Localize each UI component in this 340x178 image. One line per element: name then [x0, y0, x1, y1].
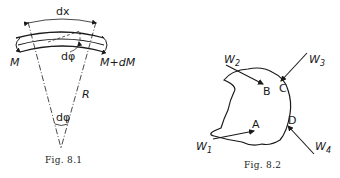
force-arrow-w3: [281, 53, 307, 81]
label-moment-right: M+dM: [100, 56, 136, 69]
fig-8-1-beam-element: dx M dφ M+dM R dφ Fig. 8.1: [10, 5, 136, 165]
figure-canvas: dx M dφ M+dM R dφ Fig. 8.1 A B C D W1 W2…: [0, 0, 340, 178]
beam-top-edge: [16, 32, 104, 38]
w1-sub: 1: [207, 146, 212, 155]
w3-sub: 3: [320, 59, 325, 68]
force-label-w2: W2: [224, 53, 240, 68]
apex-angle-arc: [55, 124, 68, 126]
fig-8-2-caption: Fig. 8.2: [244, 160, 281, 170]
label-radius: R: [82, 88, 90, 101]
radial-line-right: [61, 22, 96, 148]
point-label-b: B: [263, 85, 271, 98]
point-label-a: A: [252, 118, 260, 131]
radial-line-left: [28, 22, 61, 148]
force-arrow-w4: [288, 126, 314, 154]
force-label-w1: W1: [196, 140, 212, 155]
label-dphi-top: dφ: [61, 50, 75, 63]
w4-sub: 4: [326, 146, 331, 155]
label-moment-left: M: [10, 56, 20, 69]
fig-8-2-loaded-body: A B C D W1 W2 W3 W4 Fig. 8.2: [196, 53, 331, 170]
beam-neutral-axis: [18, 39, 104, 45]
fig-8-1-caption: Fig. 8.1: [45, 155, 82, 165]
point-label-c: C: [279, 82, 287, 95]
force-label-w4: W4: [315, 140, 331, 155]
force-label-w3: W3: [309, 53, 325, 68]
point-label-d: D: [288, 114, 296, 127]
force-arrow-w1: [213, 131, 254, 139]
dx-dimension-arc: [28, 19, 96, 23]
body-outline: [211, 68, 291, 145]
label-dx: dx: [56, 5, 70, 18]
label-dphi-apex: dφ: [56, 111, 70, 124]
w2-sub: 2: [235, 59, 240, 68]
